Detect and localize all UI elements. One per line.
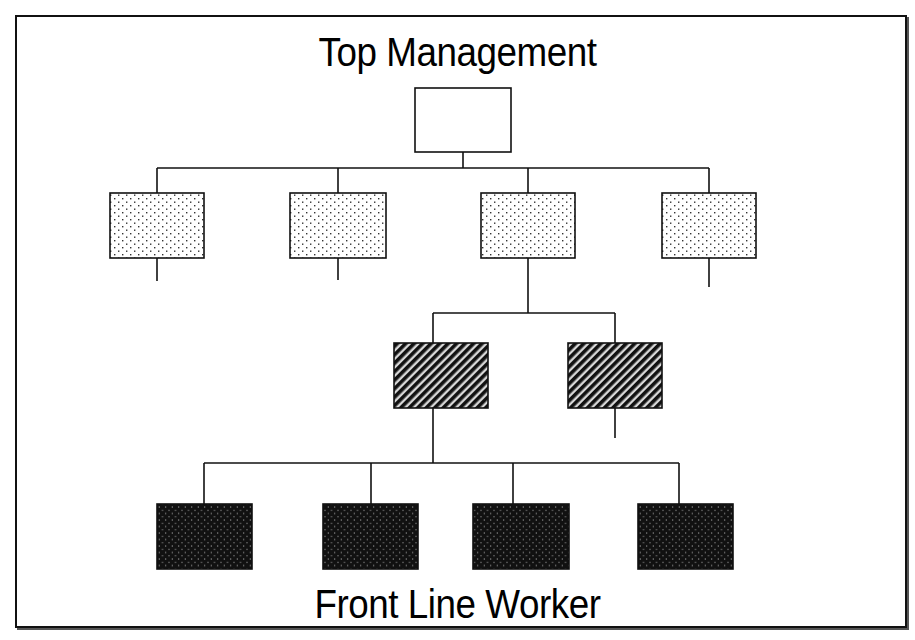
- org-box-level-4: [638, 504, 733, 569]
- org-box-level-2: [662, 193, 756, 258]
- org-box-level-3: [394, 343, 488, 408]
- org-box-level-4: [323, 504, 418, 569]
- org-box-level-1: [415, 88, 511, 152]
- org-box-level-2: [110, 193, 204, 258]
- connector-lines: [157, 152, 709, 504]
- front-line-worker-label: Front Line Worker: [37, 584, 879, 624]
- org-box-level-4: [473, 504, 569, 569]
- org-box-level-4: [157, 504, 252, 569]
- org-chart: [0, 0, 915, 640]
- org-box-level-2: [290, 193, 386, 258]
- org-box-level-2: [481, 193, 575, 258]
- org-box-level-3: [568, 343, 662, 408]
